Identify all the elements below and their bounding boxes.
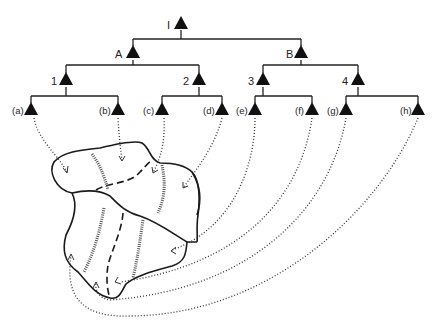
triangle-node-icon	[248, 102, 262, 115]
link-c	[153, 118, 164, 173]
leaf-label: (d)	[203, 105, 215, 116]
tree-leaf-g: (g)	[327, 102, 353, 116]
leaf-label: (c)	[143, 105, 154, 116]
triangle-node-icon	[126, 45, 140, 58]
triangle-node-icon	[294, 45, 308, 58]
leaf-label: (h)	[400, 105, 412, 116]
hatched-boundary-4	[133, 220, 143, 278]
tree-node-A: A	[115, 45, 140, 60]
tree-node-3: 3	[248, 72, 270, 87]
tree-leaf-e: (e)	[236, 102, 262, 116]
arrow-head-icon	[115, 277, 121, 284]
tree-node-4: 4	[342, 72, 365, 87]
tree-leaf-c: (c)	[143, 102, 169, 116]
leaf-label: (f)	[295, 105, 304, 116]
node-label: A	[115, 48, 123, 60]
map-boundary-middle	[72, 191, 197, 242]
dashed-boundary-lower	[107, 213, 123, 298]
tree-node-B: B	[286, 45, 308, 60]
node-label: 3	[248, 75, 254, 87]
triangle-node-icon	[339, 102, 353, 115]
node-label: I	[167, 19, 170, 31]
link-b	[118, 118, 122, 160]
link-g	[96, 118, 346, 300]
triangle-node-icon	[305, 102, 319, 115]
figure-caption-cropped: ▬▬▬ ▬▬▬▬▬ ▬▬▬▬ ▬▬▬▬▬ ▬▬▬▬▬▬ ▬▬▬▬	[82, 322, 402, 329]
triangle-node-icon	[155, 102, 169, 115]
tree-node-2: 2	[183, 72, 206, 87]
arrowheads	[63, 156, 188, 288]
node-label: 2	[183, 75, 189, 87]
link-d	[183, 118, 222, 188]
link-a	[34, 118, 67, 172]
link-f	[120, 118, 312, 282]
node-label: 1	[51, 75, 57, 87]
leaf-label: (g)	[327, 105, 339, 116]
leaf-label: (b)	[99, 105, 111, 116]
triangle-node-icon	[215, 102, 229, 115]
tree-node-1: 1	[51, 72, 73, 87]
tree-leaf-a: (a)	[12, 102, 38, 116]
map-outline-lower	[64, 193, 187, 298]
triangle-node-icon	[256, 72, 270, 85]
triangle-node-icon	[174, 16, 188, 29]
hierarchy-map-diagram: I A B 1 2 3 4 (a) (b) (c) (d) (	[0, 0, 440, 329]
map-region	[52, 142, 200, 298]
triangle-node-icon	[192, 72, 206, 85]
tree-leaf-h: (h)	[400, 102, 425, 116]
node-label: B	[286, 48, 293, 60]
node-label: 4	[342, 75, 348, 87]
tree-node-root: I	[167, 16, 188, 31]
triangle-node-icon	[24, 102, 38, 115]
tree-connectors	[31, 30, 418, 103]
triangle-node-icon	[111, 102, 125, 115]
arrow-head-icon	[183, 182, 188, 188]
arrow-head-icon	[171, 247, 176, 254]
link-e	[172, 118, 255, 250]
hatched-boundary-3	[84, 208, 104, 272]
tree-leaf-b: (b)	[99, 102, 125, 116]
hatched-boundary-2	[158, 165, 164, 213]
leaf-label: (e)	[236, 105, 248, 116]
triangle-node-icon	[411, 102, 425, 115]
leaf-label: (a)	[12, 105, 24, 116]
triangle-node-icon	[59, 72, 73, 85]
tree-leaf-f: (f)	[295, 102, 319, 116]
hatched-boundary-1	[92, 154, 108, 190]
tree-leaf-d: (d)	[203, 102, 229, 116]
triangle-node-icon	[351, 72, 365, 85]
arrow-head-icon	[68, 254, 74, 260]
